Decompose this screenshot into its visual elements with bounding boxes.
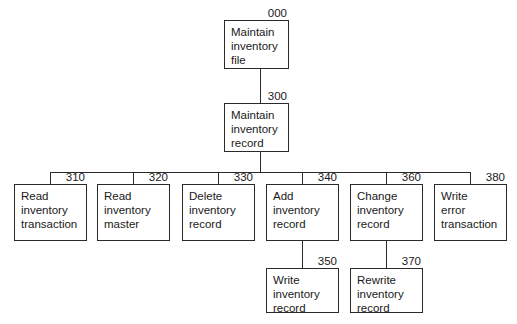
- module-box-300: Maintain inventory record: [224, 103, 289, 152]
- connector-300-bus: [260, 152, 261, 172]
- module-number: 310: [45, 171, 85, 183]
- module-label: Maintain inventory record: [231, 108, 278, 150]
- module-label: Rewrite inventory record: [357, 273, 404, 315]
- module-box-350: Write inventory record: [266, 268, 339, 313]
- module-label: Write inventory record: [273, 273, 320, 315]
- module-label: Maintain inventory file: [231, 25, 278, 67]
- module-number: 380: [465, 171, 505, 183]
- module-box-330: Delete inventory record: [182, 184, 255, 241]
- module-number: 360: [381, 171, 421, 183]
- module-box-000: Maintain inventory file: [224, 20, 289, 69]
- module-label: Add inventory record: [273, 189, 320, 231]
- module-box-360: Change inventory record: [350, 184, 423, 241]
- module-number: 340: [297, 171, 337, 183]
- module-label: Read inventory master: [104, 189, 151, 231]
- module-number: 370: [381, 255, 421, 267]
- module-number: 300: [247, 90, 287, 102]
- module-box-370: Rewrite inventory record: [350, 268, 423, 313]
- module-box-310: Read inventory transaction: [14, 184, 87, 241]
- module-box-340: Add inventory record: [266, 184, 339, 241]
- module-box-380: Write error transaction: [434, 184, 507, 241]
- module-box-320: Read inventory master: [97, 184, 170, 241]
- module-number: 350: [297, 255, 337, 267]
- module-label: Delete inventory record: [189, 189, 236, 231]
- module-number: 330: [213, 171, 253, 183]
- module-number: 000: [247, 7, 287, 19]
- module-label: Read inventory transaction: [21, 189, 77, 231]
- module-label: Change inventory record: [357, 189, 404, 231]
- module-number: 320: [128, 171, 168, 183]
- module-label: Write error transaction: [441, 189, 497, 231]
